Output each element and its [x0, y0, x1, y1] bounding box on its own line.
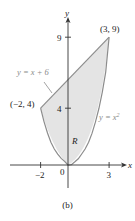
figure-caption: (b) [0, 200, 135, 210]
point-label-left: (−2, 4) [10, 99, 35, 109]
tick-label-y-4: 4 [57, 104, 62, 114]
tick-label-y-9: 9 [57, 33, 62, 43]
tick-label-x-3: 3 [107, 170, 112, 180]
line-eq-leader [44, 82, 52, 93]
point-label-top: (3, 9) [100, 24, 120, 34]
line-equation-label: y = x + 6 [16, 67, 50, 77]
parabola-eq-exp: 2 [117, 112, 120, 118]
axis-x-label: x [127, 160, 132, 170]
tick-label-x-0: 0 [60, 167, 65, 177]
region-diagram: y x 9 4 −2 0 3 (3, 9) (−2, 4) y = x + 6 … [0, 0, 135, 221]
region-label: R [71, 136, 78, 146]
parabola-eq-base: y = x [98, 112, 117, 122]
axis-y-label: y [64, 8, 69, 18]
tick-label-x-neg2: −2 [35, 170, 45, 180]
parabola-equation-label: y = x2 [98, 112, 120, 123]
